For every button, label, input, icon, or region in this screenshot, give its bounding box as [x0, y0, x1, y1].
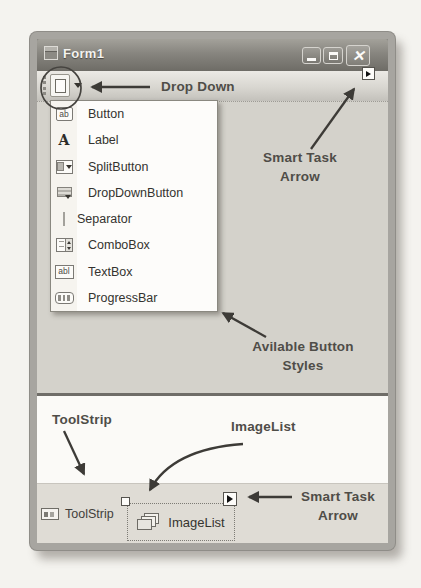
split-button-icon [51, 160, 77, 174]
close-icon: ✕ [352, 48, 365, 63]
annotation-toolstrip: ToolStrip [52, 410, 112, 429]
annotation-line: Smart Task [293, 487, 383, 506]
text-box-icon: abl [51, 265, 77, 279]
combo-box-icon [51, 238, 77, 252]
book-figure-page: Form1 ✕ ab Button [0, 0, 421, 588]
smart-task-arrow-icon [227, 495, 233, 503]
separator-icon [63, 212, 65, 226]
menu-item-button[interactable]: ab Button [51, 101, 217, 127]
smart-task-arrow-button-bottom[interactable] [223, 492, 237, 506]
maximize-icon [329, 52, 338, 60]
close-button[interactable]: ✕ [346, 45, 370, 66]
button-style-icon: ab [51, 107, 77, 121]
annotation-smart-task-top: Smart Task Arrow [253, 148, 347, 186]
menu-item-splitbutton[interactable]: SplitButton [51, 154, 217, 180]
menu-item-progressbar[interactable]: ProgressBar [51, 285, 217, 311]
menu-item-label: ComboBox [88, 238, 150, 252]
menu-item-label: Label [88, 133, 119, 147]
annotation-line: Arrow [253, 167, 347, 186]
label-style-icon: A [51, 132, 77, 148]
progress-bar-icon [51, 292, 77, 304]
window-title: Form1 [63, 46, 104, 61]
menu-item-label: Button [88, 107, 124, 121]
toolstrip-component-label: ToolStrip [65, 507, 114, 521]
toolstrip-component-icon [41, 508, 59, 520]
new-button-document-icon [55, 79, 66, 93]
toolstrip-grip[interactable] [43, 76, 46, 95]
menu-item-label: TextBox [88, 265, 132, 279]
imagelist-selection-handle[interactable] [121, 497, 130, 506]
imagelist-component-icon [137, 513, 161, 531]
dropdown-arrow-icon [74, 83, 82, 88]
annotation-imagelist: ImageList [231, 417, 296, 436]
form-window-icon [44, 46, 58, 60]
menu-item-dropdownbutton[interactable]: DropDownButton [51, 180, 217, 206]
tray-item-imagelist[interactable]: ImageList [127, 503, 235, 541]
annotation-line: Styles [238, 356, 368, 375]
toolstrip-new-item-button[interactable] [50, 74, 70, 97]
titlebar: Form1 ✕ [37, 39, 388, 71]
screenshot-frame: Form1 ✕ ab Button [30, 32, 395, 550]
menu-item-label: Separator [77, 212, 132, 226]
annotation-smart-task-bottom: Smart Task Arrow [293, 487, 383, 525]
maximize-button[interactable] [323, 47, 343, 64]
button-styles-dropdown-menu: ab Button A Label SplitButton DropDownBu… [50, 100, 218, 312]
menu-item-separator[interactable]: Separator [51, 206, 217, 232]
tray-item-toolstrip[interactable]: ToolStrip [41, 505, 114, 523]
annotation-available-styles: Avilable Button Styles [238, 337, 368, 375]
menu-item-label: SplitButton [88, 160, 148, 174]
menu-item-textbox[interactable]: abl TextBox [51, 259, 217, 285]
minimize-button[interactable] [302, 47, 321, 64]
smart-task-arrow-icon [366, 71, 371, 77]
smart-task-arrow-button-top[interactable] [362, 67, 375, 80]
menu-item-label-style[interactable]: A Label [51, 127, 217, 153]
annotation-line: Arrow [293, 506, 383, 525]
annotation-line: Avilable Button [238, 337, 368, 356]
imagelist-component-label: ImageList [168, 515, 224, 530]
menu-item-label: DropDownButton [88, 186, 183, 200]
annotation-line: Smart Task [253, 148, 347, 167]
drop-down-button-icon [51, 187, 77, 199]
menu-item-label: ProgressBar [88, 291, 157, 305]
minimize-icon [307, 58, 316, 61]
annotation-drop-down: Drop Down [161, 77, 235, 96]
menu-item-combobox[interactable]: ComboBox [51, 232, 217, 258]
toolstrip-item-style-dropdown[interactable] [72, 75, 84, 96]
